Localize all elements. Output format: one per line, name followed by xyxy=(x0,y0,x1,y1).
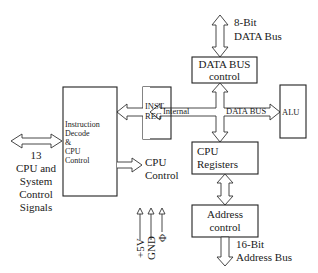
svg-text:CPUControl: CPUControl xyxy=(145,156,179,181)
cpu-registers-label-1: CPU xyxy=(197,145,218,157)
cpu-registers-label-2: Registers xyxy=(197,158,238,170)
decode-label-5: Control xyxy=(65,156,90,165)
svg-text:13CPU andSystemControlSignals: 13CPU andSystemControlSignals xyxy=(16,149,57,213)
decode-label-4: CPU xyxy=(65,147,81,156)
address-bus-label-1: 16-Bit xyxy=(236,238,264,250)
alu-label: ALU xyxy=(282,107,299,117)
decode-label-3: & xyxy=(65,138,72,147)
data-bus-8bit-label-1: 8-Bit xyxy=(234,16,257,28)
registers-address-arrow xyxy=(217,174,233,205)
inst-reg-label-1: INST. xyxy=(145,101,165,111)
decode-label-1: Instruction xyxy=(65,120,100,129)
clock-phi-label: Φ xyxy=(156,234,168,242)
address-control-label-1: Address xyxy=(207,208,243,220)
cpu-control-label-2: Control xyxy=(145,169,179,181)
inst-reg-to-decode-arrow xyxy=(117,104,143,120)
power-pin-5v xyxy=(137,208,143,240)
control-signals-label-5: Signals xyxy=(20,201,52,213)
address-bus-16bit-arrow xyxy=(217,237,233,266)
cpu-control-arrow xyxy=(117,158,142,172)
data-bus-8bit-label-2: DATA Bus xyxy=(234,30,282,42)
control-signals-label-4: Control xyxy=(19,188,53,200)
data-bus-control-label-1: DATA BUS xyxy=(199,58,251,70)
internal-data-bus-label: DATA BUS xyxy=(226,106,266,116)
inst-reg-label-2: REG xyxy=(145,111,162,121)
control-signals-label-3: System xyxy=(20,175,53,187)
address-bus-label-2: Address Bus xyxy=(236,251,292,263)
clock-pin-phi xyxy=(159,208,165,232)
data-bus-8bit-arrow xyxy=(212,15,228,57)
cpu-block-diagram: 8-BitDATA Bus DATA BUScontrol Internal D… xyxy=(0,0,318,273)
control-signals-label-2: CPU and xyxy=(16,162,57,174)
control-signals-arrow xyxy=(11,134,62,148)
power-pin-gnd xyxy=(148,208,154,240)
internal-label: Internal xyxy=(163,106,190,116)
svg-text:8-BitDATA Bus: 8-BitDATA Bus xyxy=(234,16,282,42)
svg-text:Addresscontrol: Addresscontrol xyxy=(207,208,243,233)
svg-text:16-BitAddress Bus: 16-BitAddress Bus xyxy=(236,238,292,263)
address-control-label-2: control xyxy=(209,221,240,233)
data-bus-control-label-2: control xyxy=(209,70,240,82)
decode-label-2: Decode xyxy=(65,129,90,138)
cpu-control-label-1: CPU xyxy=(145,156,166,168)
control-signals-label-1: 13 xyxy=(31,149,43,161)
